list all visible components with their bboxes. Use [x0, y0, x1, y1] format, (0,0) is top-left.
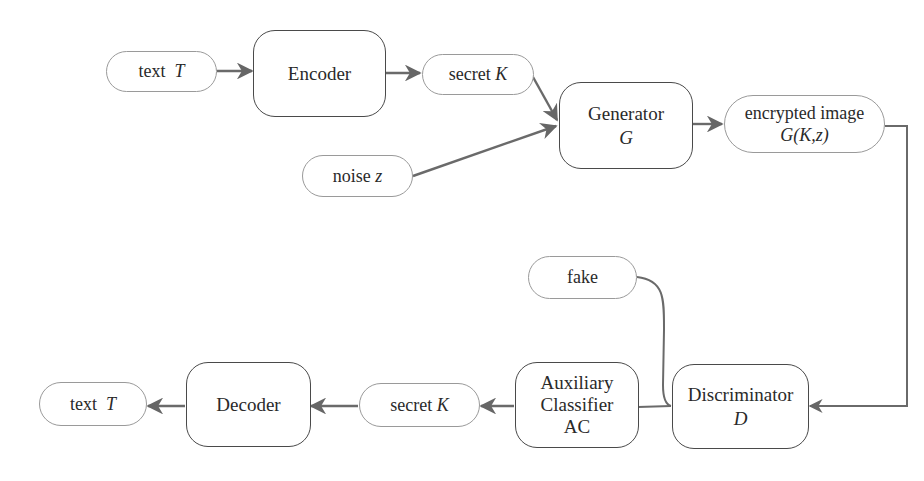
edge-fake-to-discriminator — [637, 277, 671, 406]
edge-encrypted-to-discriminator — [810, 126, 907, 406]
node-generator: Generator G — [559, 82, 693, 169]
edge-ac-discriminator — [638, 406, 671, 407]
node-secret-key-out: secret K — [359, 383, 480, 427]
node-discriminator: Discriminator D — [672, 364, 809, 449]
node-encoder: Encoder — [253, 30, 386, 117]
node-text-input: text T — [106, 51, 217, 92]
node-secret-key-in: secret K — [422, 54, 534, 95]
node-text-output: text T — [39, 382, 147, 426]
edge-secret-to-generator — [533, 77, 557, 120]
node-fake: fake — [528, 256, 637, 299]
node-noise: noise z — [302, 155, 413, 197]
node-auxiliary-classifier: Auxiliary Classifier AC — [515, 362, 639, 448]
node-encrypted-image: encrypted image G(K,z) — [724, 95, 885, 153]
edge-noise-to-generator — [413, 126, 556, 176]
node-decoder: Decoder — [186, 362, 311, 447]
